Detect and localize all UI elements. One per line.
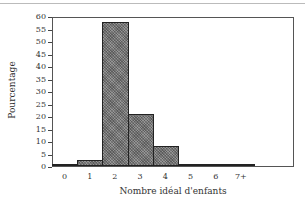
y-tick-label: 0: [26, 163, 46, 171]
plot-area: [52, 17, 294, 167]
y-axis-label: Pourcentage: [7, 60, 17, 120]
bar-7+: [228, 164, 254, 166]
y-tick-label: 30: [26, 88, 46, 96]
bar-2: [102, 22, 128, 166]
y-tick-mark: [48, 167, 52, 168]
bar-3: [128, 114, 154, 167]
y-tick-label: 40: [26, 63, 46, 71]
bar-0: [52, 164, 78, 167]
x-axis-label: Nombre idéal d'enfants: [52, 186, 294, 196]
x-tick-label: 0: [52, 172, 77, 181]
x-tick-label: 5: [178, 172, 203, 181]
x-tick-label: 1: [77, 172, 102, 181]
x-tick-label: 4: [153, 172, 178, 181]
y-tick-label: 5: [26, 151, 46, 159]
bar-4: [153, 146, 179, 166]
y-tick-label: 45: [26, 51, 46, 59]
x-tick-label: 7+: [228, 172, 253, 181]
y-tick-label: 50: [26, 38, 46, 46]
y-tick-label: 25: [26, 101, 46, 109]
y-tick-label: 35: [26, 76, 46, 84]
x-tick-label: 6: [203, 172, 228, 181]
bar-1: [77, 160, 103, 166]
y-tick-label: 55: [26, 26, 46, 34]
y-tick-label: 15: [26, 126, 46, 134]
x-tick-label: 3: [128, 172, 153, 181]
x-tick-label: 2: [102, 172, 127, 181]
y-tick-label: 20: [26, 113, 46, 121]
bar-5: [178, 164, 204, 166]
page-rule: [0, 3, 305, 4]
y-tick-label: 10: [26, 138, 46, 146]
y-tick-label: 60: [26, 13, 46, 21]
bar-6: [203, 164, 229, 166]
